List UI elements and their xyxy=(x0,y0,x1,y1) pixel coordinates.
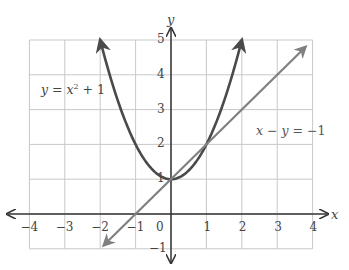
x-tick-label: 4 xyxy=(310,221,318,233)
y-tick-label: 4 xyxy=(157,68,165,80)
y-tick-label: 3 xyxy=(157,103,165,115)
y-tick-label: 1 xyxy=(157,172,165,184)
x-tick-label: −3 xyxy=(56,221,74,233)
x-axis-label: x xyxy=(331,208,338,221)
y-tick-label: 2 xyxy=(157,137,165,149)
x-tick-label: 0 xyxy=(156,221,164,233)
x-tick-label: 1 xyxy=(203,221,211,233)
parabola-label-y: y xyxy=(41,82,48,97)
chart: y x −4−3−2−101234 54321−1 y = x2 + 1 x −… xyxy=(0,0,349,270)
x-tick-label: 3 xyxy=(274,221,282,233)
linear-line xyxy=(104,47,306,245)
x-tick-label: −1 xyxy=(127,221,145,233)
y-tick-label: 5 xyxy=(157,33,165,45)
line-label: x − y = −1 xyxy=(256,125,325,138)
parabola-label: y = x2 + 1 xyxy=(41,83,105,97)
parabola-label-eq: = xyxy=(48,82,66,97)
parabola-label-rest: + 1 xyxy=(79,82,105,97)
line-label-minus: − xyxy=(263,123,281,138)
line-label-y: y xyxy=(281,123,288,138)
parabola-label-x: x xyxy=(66,82,73,97)
y-axis-label: y xyxy=(167,13,174,26)
x-tick-label: 2 xyxy=(239,221,247,233)
x-tick-label: −2 xyxy=(91,221,109,233)
y-tick-label: −1 xyxy=(149,242,167,254)
line-label-rest: = −1 xyxy=(289,123,326,138)
x-tick-label: −4 xyxy=(20,221,38,233)
line-label-x: x xyxy=(256,123,263,138)
